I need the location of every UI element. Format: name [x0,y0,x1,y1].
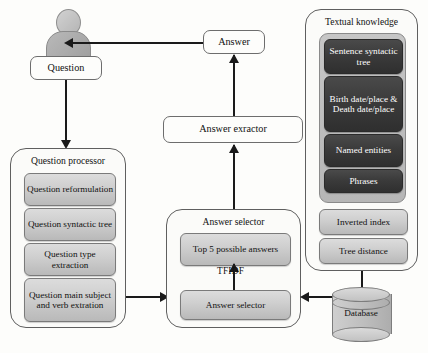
node-question[interactable]: Question [30,56,102,80]
as-top5-answers[interactable]: Top 5 possible answers [180,233,291,266]
node-answer-extractor[interactable]: Answer exractor [163,116,303,143]
as-answer-selector-box[interactable]: Answer selector [180,290,291,320]
edge-processor-to-selector [126,296,162,298]
tk-sentence-syntactic-tree[interactable]: Sentence syntactic tree [324,39,403,74]
group-answer-selector-title: Answer selector [167,216,300,227]
database-top-icon [332,287,390,302]
group-textual-knowledge-title: Textual knowledge [306,16,417,27]
tk-phrases[interactable]: Phrases [324,169,403,193]
qp-step-syntactic-tree[interactable]: Question syntactic tree [24,208,116,241]
group-question-processor-title: Question processor [11,155,125,166]
diagram-canvas: Question Answer Answer exractor Question… [0,0,428,353]
edge-extractor-to-answer [233,55,235,117]
qp-step-reformulation[interactable]: Question reformulation [24,173,116,206]
database-bottom-icon [332,327,390,342]
edge-selector-to-database-arrowhead-left [300,292,309,302]
node-database[interactable]: Database [332,286,390,344]
group-textual-knowledge: Textual knowledge Sentence syntactic tre… [305,9,418,271]
tk-birth-death-date-place[interactable]: Birth date/place & Death date/place [324,76,403,132]
edge-extractor-to-answer-arrowhead [229,54,239,63]
database-label: Database [332,308,390,318]
group-question-processor: Question processor Question reformulatio… [10,148,126,328]
edge-label-tfidf: TFIDF [217,266,244,276]
edge-answer-to-user-arrowhead [64,38,73,48]
edge-selector-to-extractor-arrowhead [229,144,239,153]
node-answer[interactable]: Answer [203,30,265,54]
tk-named-entities[interactable]: Named entities [324,134,403,167]
qp-step-type-extraction[interactable]: Question type extraction [24,243,116,276]
edge-question-to-processor [65,80,67,142]
qp-step-main-subject-verb[interactable]: Question main subject and verb extration [24,278,116,322]
group-answer-selector: Answer selector Top 5 possible answers T… [166,209,301,328]
edge-answer-to-user [72,42,206,44]
tk-tree-distance[interactable]: Tree distance [319,238,408,264]
edge-selector-to-extractor [233,145,235,209]
tk-inverted-index[interactable]: Inverted index [319,209,408,235]
